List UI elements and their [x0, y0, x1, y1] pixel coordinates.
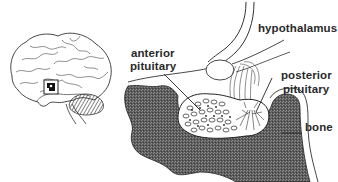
pituitary-diagram: hypothalamus anterior pituitary posterio… — [0, 0, 338, 182]
label-posterior-line2: pituitary — [283, 83, 329, 96]
label-bone: bone — [305, 121, 333, 134]
label-anterior-line1: anterior — [131, 47, 175, 60]
label-posterior-line1: posterior — [281, 69, 332, 82]
label-hypothalamus: hypothalamus — [258, 22, 337, 35]
label-anterior-line2: pituitary — [130, 60, 176, 73]
